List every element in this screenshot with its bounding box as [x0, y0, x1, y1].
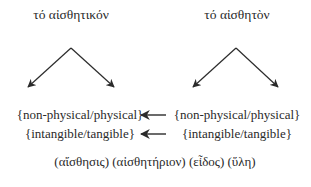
left-row2-label: {intangible/tangible} — [25, 127, 135, 140]
arrow-down-right-icon — [71, 48, 114, 87]
right-row2-label: {intangible/tangible} — [182, 127, 292, 140]
right-branch-arrows — [193, 48, 278, 87]
arrow-down-left-icon — [193, 48, 236, 87]
arrow-down-left-icon — [28, 48, 71, 87]
right-row1-label: {non-physical/physical} — [174, 108, 301, 121]
footer-terms: (αἴσθησις) (αἰσθητήριον) (εἶδος) (ὕλη) — [54, 155, 255, 168]
left-row1-label: {non-physical/physical} — [17, 108, 144, 121]
horizontal-arrows — [141, 115, 166, 134]
arrow-down-right-icon — [236, 48, 278, 87]
left-branch-arrows — [28, 48, 114, 87]
